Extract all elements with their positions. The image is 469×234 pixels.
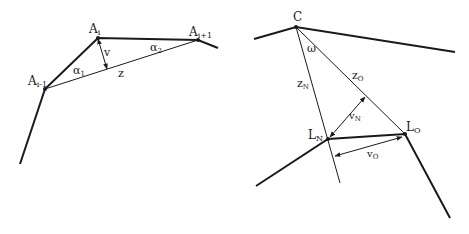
- lower-polyline: [256, 134, 450, 218]
- line-z-n: [296, 27, 340, 183]
- left-diagram: Ai-1 Ai Ai+1 v z α1 α2: [20, 22, 218, 164]
- label-alpha1: α1: [73, 64, 85, 78]
- label-omega: ω: [307, 42, 316, 55]
- right-diagram: C ω zN zO vN vO LN LO: [254, 10, 455, 218]
- polyline-path: [20, 38, 218, 164]
- label-a-prev: Ai-1: [27, 74, 47, 89]
- label-v-o: vO: [366, 148, 379, 161]
- label-v: v: [103, 46, 111, 59]
- label-a-next: Ai+1: [188, 25, 212, 40]
- label-v-n: vN: [348, 110, 361, 123]
- label-alpha2: α2: [150, 41, 162, 55]
- label-z-n: zN: [297, 77, 309, 91]
- label-a-curr: Ai: [88, 22, 101, 37]
- label-l-n: LN: [308, 128, 323, 143]
- vertex-l-n: [326, 137, 330, 141]
- label-z-o: zO: [352, 69, 364, 83]
- chord-z: [45, 40, 198, 89]
- upper-polyline: [254, 27, 455, 52]
- label-l-o: LO: [406, 120, 421, 135]
- geometry-diagram: Ai-1 Ai Ai+1 v z α1 α2 C ω zN zO: [0, 0, 469, 234]
- vertex-c: [294, 25, 298, 29]
- label-z: z: [118, 67, 124, 80]
- label-c: C: [293, 10, 302, 24]
